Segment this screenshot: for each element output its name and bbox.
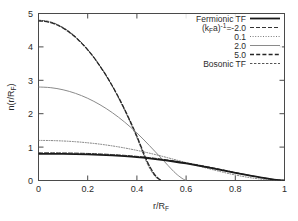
x-axis-tick-labels: 0 0.2 0.4 0.6 0.8 1 — [36, 184, 287, 194]
y-axis-label: n(r/RF) — [6, 84, 17, 111]
y-axis-label-main-b: ) — [6, 84, 16, 87]
x-axis-label: r/RF — [153, 201, 169, 212]
y-tick-label-4: 4 — [28, 42, 33, 52]
svg-text:n(r/RF): n(r/RF) — [6, 84, 17, 111]
svg-text:r/RF: r/RF — [153, 201, 169, 212]
chart-figure: 0 1 2 3 4 5 0 0.2 0.4 0.6 — [0, 0, 298, 221]
x-tick-label-2: 0.4 — [131, 184, 144, 194]
y-tick-label-3: 3 — [28, 76, 33, 86]
x-tick-label-0: 0 — [36, 184, 41, 194]
line-chart: 0 1 2 3 4 5 0 0.2 0.4 0.6 — [0, 0, 298, 221]
y-tick-label-5: 5 — [28, 9, 33, 19]
x-tick-label-1: 0.2 — [81, 184, 94, 194]
x-tick-label-3: 0.6 — [180, 184, 193, 194]
y-tick-label-1: 1 — [28, 143, 33, 153]
y-axis-label-main-a: n(r/R — [6, 90, 16, 111]
curve-kfa-neg2p0 — [39, 153, 285, 181]
x-axis-label-main: r/R — [153, 201, 165, 211]
y-axis-tick-labels: 0 1 2 3 4 5 — [28, 9, 33, 186]
curve-kfa-2p0 — [39, 87, 187, 181]
legend-label-bosonic-tf: Bosonic TF — [203, 59, 246, 69]
y-tick-label-2: 2 — [28, 109, 33, 119]
x-tick-label-5: 1 — [282, 184, 287, 194]
x-tick-label-4: 0.8 — [229, 184, 242, 194]
legend: Fermionic TF (kFa)-1=-2.0 0.1 2.0 5.0 Bo… — [166, 14, 282, 69]
y-tick-label-0: 0 — [28, 176, 33, 186]
x-axis-label-subscript: F — [165, 205, 169, 212]
